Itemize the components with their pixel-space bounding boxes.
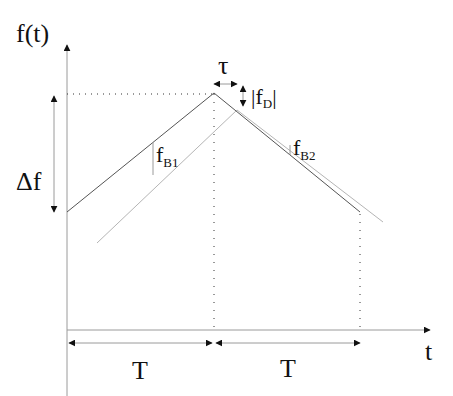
period-left-label: T [132,356,148,385]
beat1-label: fB1 [156,142,179,170]
doppler-label: |fD| [251,84,277,111]
fmcw-diagram: Δf f(t) t τ |fD| fB1 fB2 T T [0,0,453,396]
beat2-label: fB2 [293,135,316,163]
received-signal-line [97,110,383,243]
x-axis-label: t [425,337,433,366]
tau-label: τ [218,51,228,80]
delta-f-label: Δf [16,167,42,196]
period-right-label: T [280,354,296,383]
y-axis-label: f(t) [16,19,49,48]
